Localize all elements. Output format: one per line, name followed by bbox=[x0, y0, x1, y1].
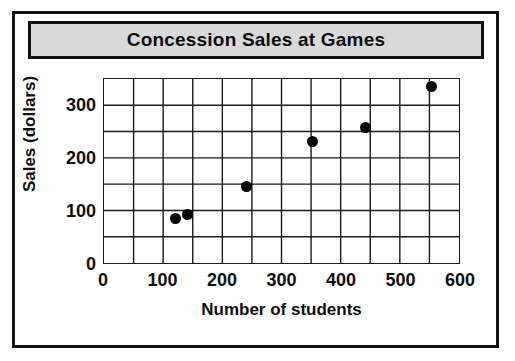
x-axis-tick-labels: 0100200300400500600 bbox=[103, 271, 460, 293]
data-points-layer bbox=[104, 79, 459, 263]
x-axis-title: Number of students bbox=[103, 300, 460, 320]
x-axis-tick-label: 100 bbox=[147, 271, 177, 289]
y-axis-tick-label: 200 bbox=[66, 149, 96, 167]
data-point bbox=[426, 81, 437, 92]
y-axis-tick-labels: 0100200300 bbox=[52, 78, 96, 264]
data-point bbox=[170, 213, 181, 224]
x-axis-tick-label: 600 bbox=[445, 271, 475, 289]
chart-figure: Concession Sales at Games 0100200300 010… bbox=[0, 0, 515, 361]
y-axis-tick-label: 0 bbox=[86, 255, 96, 273]
x-axis-tick-label: 0 bbox=[98, 271, 108, 289]
y-axis-title: Sales (dollars) bbox=[20, 41, 40, 227]
data-point bbox=[241, 181, 252, 192]
data-point bbox=[360, 122, 371, 133]
x-axis-tick-label: 500 bbox=[385, 271, 415, 289]
x-axis-tick-label: 400 bbox=[326, 271, 356, 289]
data-point bbox=[182, 209, 193, 220]
plot-area bbox=[103, 78, 460, 264]
x-axis-tick-label: 300 bbox=[266, 271, 296, 289]
data-point bbox=[307, 136, 318, 147]
x-axis-tick-label: 200 bbox=[207, 271, 237, 289]
chart-title: Concession Sales at Games bbox=[127, 29, 385, 51]
y-axis-tick-label: 300 bbox=[66, 96, 96, 114]
y-axis-tick-label: 100 bbox=[66, 202, 96, 220]
chart-title-banner: Concession Sales at Games bbox=[28, 21, 484, 59]
